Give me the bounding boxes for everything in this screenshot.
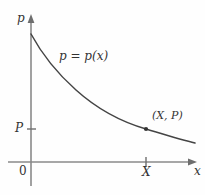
- point-coordinate-label: (X, P): [152, 110, 183, 121]
- tick-label-P: P: [15, 122, 23, 134]
- point-marker-XP: [144, 127, 148, 131]
- demand-curve-figure: p x 0 P X p = p(x) (X, P): [0, 0, 205, 195]
- origin-label: 0: [19, 165, 27, 177]
- axis-label-p: p: [17, 12, 25, 24]
- curve-equation-label: p = p(x): [59, 50, 108, 62]
- demand-curve: [31, 34, 195, 143]
- tick-label-X: X: [142, 166, 151, 178]
- horizontal-axis: [8, 159, 197, 166]
- vertical-axis: [28, 14, 35, 186]
- figure-canvas: [0, 0, 205, 195]
- axis-label-x: x: [194, 165, 201, 177]
- vertical-axis-arrow-icon: [28, 14, 35, 23]
